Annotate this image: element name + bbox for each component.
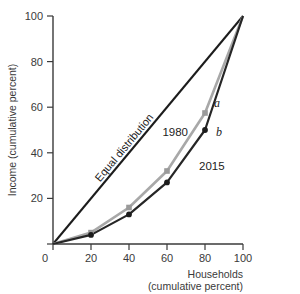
marker-2015-20 xyxy=(88,232,94,238)
series-label-1980: 1980 xyxy=(162,126,188,138)
y-tick-label-40: 40 xyxy=(31,147,43,159)
point-label-b: b xyxy=(216,125,222,139)
marker-1980-80 xyxy=(202,110,208,116)
marker-2015-60 xyxy=(164,180,170,186)
x-tick-label-60: 60 xyxy=(161,252,173,264)
marker-1980-40 xyxy=(126,205,132,211)
x-tick-label-80: 80 xyxy=(199,252,211,264)
y-tick-label-0: 0 xyxy=(42,252,48,264)
y-tick-label-100: 100 xyxy=(25,10,43,22)
x-tick-label-100: 100 xyxy=(234,252,252,264)
marker-1980-60 xyxy=(164,168,170,174)
lorenz-curve-figure: 100 80 60 40 20 0 20 40 60 80 100 xyxy=(0,0,300,294)
x-axis-title-line2: (cumulative percent) xyxy=(148,280,243,292)
x-tick-label-20: 20 xyxy=(85,252,97,264)
x-tick-label-40: 40 xyxy=(123,252,135,264)
y-tick-label-60: 60 xyxy=(31,101,43,113)
y-tick-label-20: 20 xyxy=(31,192,43,204)
marker-2015-40 xyxy=(126,212,132,218)
point-label-a: a xyxy=(214,96,220,110)
y-tick-label-80: 80 xyxy=(31,56,43,68)
chart-canvas: 100 80 60 40 20 0 20 40 60 80 100 xyxy=(0,0,300,294)
series-label-2015: 2015 xyxy=(199,160,225,172)
x-axis-title-line1: Households xyxy=(188,268,243,280)
y-axis-title: Income (cumulative percent) xyxy=(6,64,18,196)
marker-2015-80 xyxy=(202,127,208,133)
